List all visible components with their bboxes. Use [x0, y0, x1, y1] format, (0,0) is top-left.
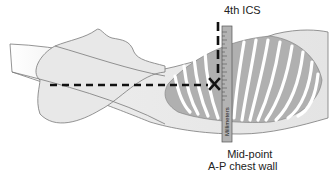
- chest-diagram: Millimeters 4th ICS Mid-point A-P chest …: [0, 0, 330, 173]
- label-midpoint-line1: Mid-point: [222, 148, 278, 160]
- millimeter-ruler: Millimeters: [222, 26, 232, 142]
- svg-text:Millimeters: Millimeters: [224, 107, 230, 136]
- label-midpoint-line2: A-P chest wall: [208, 160, 278, 172]
- label-midpoint-ap-chest-wall: Mid-point A-P chest wall: [222, 148, 278, 172]
- label-4th-ics: 4th ICS: [224, 4, 261, 16]
- rib-cage: [165, 36, 322, 123]
- patient-supine-illustration: Millimeters: [0, 0, 330, 173]
